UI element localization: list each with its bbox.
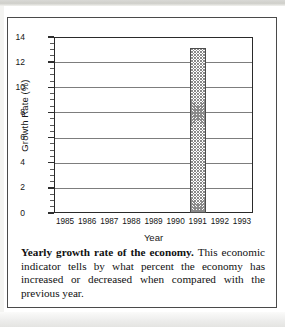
y-axis-tick-label: 4 — [5, 158, 25, 167]
y-axis-tick-label: 6 — [5, 133, 25, 142]
gridline — [55, 138, 252, 139]
scan-artifact-left — [0, 6, 4, 312]
x-axis-tick-label: 1988 — [122, 217, 140, 226]
bar-chart: Growth Rate (%) 02468101214 198519861987… — [8, 18, 276, 241]
figure-caption: Yearly growth rate of the economy. This … — [21, 246, 265, 300]
x-axis-label: Year — [54, 232, 253, 243]
y-axis-tick-label: 8 — [5, 108, 25, 117]
gridline — [55, 112, 252, 113]
x-axis-tick-label: 1991 — [189, 217, 207, 226]
plot-area — [54, 37, 253, 213]
gridline — [55, 188, 252, 189]
y-axis-tick-label: 10 — [5, 83, 25, 92]
x-axis-tick-label: 1993 — [233, 217, 251, 226]
x-axis-tick-label: 1986 — [78, 217, 96, 226]
gridline — [55, 62, 252, 63]
x-axis-tick-label: 1987 — [100, 217, 118, 226]
y-axis-tick-label: 2 — [5, 183, 25, 192]
x-axis-tick-label: 1989 — [144, 217, 162, 226]
x-axis-tick-label: 1992 — [211, 217, 229, 226]
y-axis-tick-label: 0 — [5, 209, 25, 218]
caption-lead-text: Yearly growth rate of the economy. — [21, 246, 194, 258]
x-axis-tick-label: 1985 — [56, 217, 74, 226]
figure-container: Growth Rate (%) 02468101214 198519861987… — [7, 17, 277, 308]
scan-artifact-top — [0, 0, 285, 6]
x-axis-tick-label: 1990 — [167, 217, 185, 226]
y-axis-tick-label: 14 — [5, 33, 25, 42]
y-axis-tick-label: 12 — [5, 58, 25, 67]
gridline — [55, 87, 252, 88]
scan-artifact-bottom — [0, 312, 285, 327]
gridline — [55, 163, 252, 164]
x-axis-tick-labels: 198519861987198819891990199119921993 — [54, 217, 253, 229]
